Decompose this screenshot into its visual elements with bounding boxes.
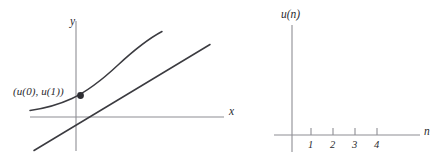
figure-canvas [0, 0, 437, 161]
exponential-curve [30, 32, 162, 111]
tick-label-1: 1 [308, 140, 313, 151]
figure-container: y x (u(0), u(1)) u(n) n 1 2 3 4 [0, 0, 437, 161]
initial-condition-point-label: (u(0), u(1)) [13, 86, 64, 97]
discrete-plot-panel [274, 25, 420, 152]
initial-condition-point [77, 92, 84, 99]
discrete-x-axis-label: n [424, 126, 430, 138]
tick-label-2: 2 [330, 140, 335, 151]
continuous-x-axis-label: x [229, 106, 234, 118]
discrete-y-axis-label: u(n) [281, 9, 300, 21]
continuous-y-axis-label: y [70, 16, 75, 28]
tick-label-4: 4 [374, 140, 379, 151]
tick-label-3: 3 [352, 140, 357, 151]
